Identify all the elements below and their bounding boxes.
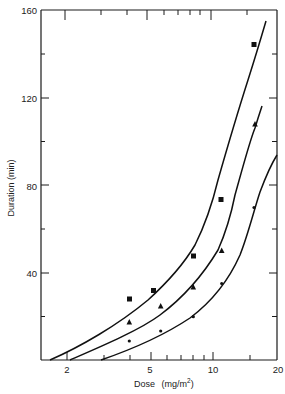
square-marker <box>252 42 257 47</box>
triangle-marker <box>158 303 164 309</box>
x-axis-label: Dose (mg/m2) <box>134 377 194 389</box>
y-ticks-left <box>41 54 49 317</box>
square-marker <box>127 297 132 302</box>
x-tick-labels: 2 5 10 20 <box>64 364 283 375</box>
y-tick-label-160: 160 <box>21 5 37 16</box>
y-ticks-right <box>269 54 277 317</box>
x-tick-label-2: 2 <box>64 364 69 375</box>
square-marker <box>219 197 224 202</box>
x-tick-label-20: 20 <box>273 364 284 375</box>
dot-marker <box>252 206 255 209</box>
dot-marker <box>159 329 162 332</box>
dot-marker <box>220 282 223 285</box>
y-tick-label-80: 80 <box>26 181 37 192</box>
x-axis-label-text: Dose <box>134 379 155 389</box>
triangle-marker <box>219 248 225 254</box>
x-ticks-bottom <box>67 352 250 360</box>
dot-markers <box>128 206 256 343</box>
y-axis-label: Duration (min) <box>6 159 16 216</box>
x-axis-unit-close: ) <box>191 379 194 389</box>
lower-fit-curve <box>101 155 277 360</box>
x-axis-unit: (mg/m <box>162 379 188 389</box>
x-ticks-top <box>65 10 247 20</box>
dose-duration-chart: 160 120 80 40 2 5 10 20 Dose (mg/m2) Dur… <box>0 0 285 394</box>
x-tick-label-5: 5 <box>147 364 152 375</box>
y-tick-label-40: 40 <box>26 268 37 279</box>
fitted-curves <box>50 21 277 360</box>
triangle-markers <box>127 121 258 325</box>
y-tick-labels: 160 120 80 40 <box>21 5 37 280</box>
middle-fit-curve <box>70 106 262 360</box>
triangle-marker <box>127 319 133 325</box>
y-tick-label-120: 120 <box>21 93 37 104</box>
x-tick-label-10: 10 <box>208 364 219 375</box>
upper-fit-curve <box>50 21 266 360</box>
dot-marker <box>128 339 131 342</box>
square-marker <box>191 254 196 259</box>
dot-marker <box>192 315 195 318</box>
square-marker <box>151 288 156 293</box>
